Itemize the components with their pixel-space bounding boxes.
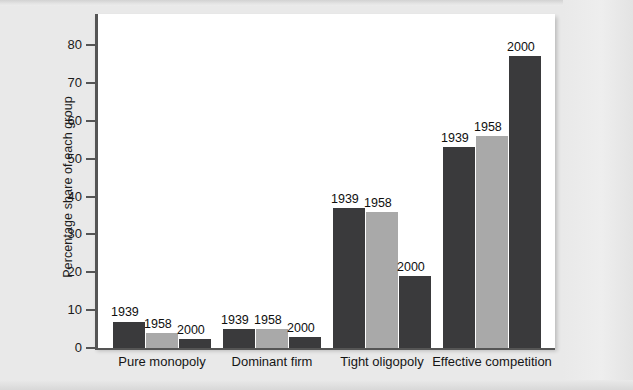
y-axis-tick-mark xyxy=(86,158,95,160)
y-axis-tick-label: 50 xyxy=(68,152,82,166)
bar-series-label: 1939 xyxy=(331,193,359,206)
x-axis-line xyxy=(95,348,555,350)
bar xyxy=(289,337,321,348)
bar-series-label: 2000 xyxy=(287,322,315,335)
y-axis-tick: 70 xyxy=(0,76,95,90)
y-axis-tick-label: 30 xyxy=(68,227,82,241)
y-axis-tick-mark xyxy=(86,120,95,122)
y-axis-tick-label: 70 xyxy=(68,76,82,90)
y-axis-tick-mark xyxy=(86,347,95,349)
y-axis-tick-label: 10 xyxy=(68,303,82,317)
bar xyxy=(146,333,178,348)
bar-series-label: 1958 xyxy=(474,121,502,134)
bar xyxy=(509,56,541,348)
bar xyxy=(179,339,211,348)
bar xyxy=(366,212,398,348)
bar xyxy=(476,136,508,348)
y-axis-tick: 30 xyxy=(0,227,95,241)
bar-series-label: 1939 xyxy=(221,314,249,327)
bar xyxy=(399,276,431,348)
y-axis-tick-label: 0 xyxy=(75,341,82,355)
bar-series-label: 2000 xyxy=(177,324,205,337)
y-axis-tick-mark xyxy=(86,44,95,46)
y-axis-tick: 10 xyxy=(0,303,95,317)
y-axis-tick-label: 40 xyxy=(68,190,82,204)
y-axis-tick-label: 20 xyxy=(68,265,82,279)
y-axis-tick: 50 xyxy=(0,152,95,166)
bar-series-label: 1958 xyxy=(364,197,392,210)
y-axis-tick-label: 80 xyxy=(68,38,82,52)
bar xyxy=(223,329,255,348)
y-axis-tick-mark xyxy=(86,196,95,198)
bar-series-label: 1939 xyxy=(441,132,469,145)
y-axis-tick-mark xyxy=(86,271,95,273)
x-axis-category-label: Effective competition xyxy=(412,354,572,369)
y-axis-tick-label: 60 xyxy=(68,114,82,128)
bar-chart-figure: Percentage share of each group 010203040… xyxy=(0,0,633,390)
y-axis-tick: 20 xyxy=(0,265,95,279)
bar xyxy=(443,147,475,348)
bar-series-label: 1939 xyxy=(111,306,139,319)
y-axis-tick-mark xyxy=(86,309,95,311)
bar xyxy=(256,329,288,348)
bar xyxy=(113,322,145,349)
bar-series-label: 1958 xyxy=(254,314,282,327)
y-axis-tick: 60 xyxy=(0,114,95,128)
bars-layer: 1939195820001939195820001939195820001939… xyxy=(95,14,555,348)
y-axis-tick-mark xyxy=(86,233,95,235)
y-axis-tick: 80 xyxy=(0,38,95,52)
y-axis-tick-mark xyxy=(86,82,95,84)
bar-series-label: 2000 xyxy=(397,261,425,274)
bar-series-label: 2000 xyxy=(507,41,535,54)
y-axis-tick: 0 xyxy=(0,341,95,355)
y-axis-tick: 40 xyxy=(0,190,95,204)
bar-series-label: 1958 xyxy=(144,318,172,331)
bar xyxy=(333,208,365,348)
